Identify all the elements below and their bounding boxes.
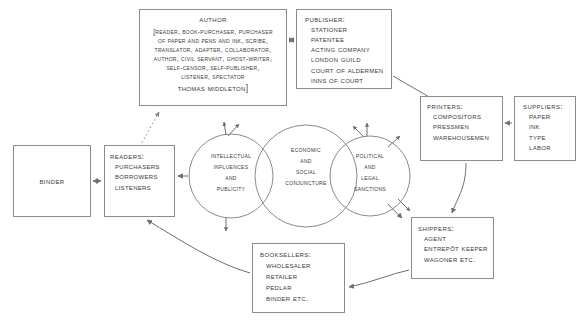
node-suppliers-line: Labor <box>523 143 575 154</box>
node-author-signature: Thomas Middleton] <box>143 83 283 93</box>
node-publisher-line: Inns of Court <box>305 76 391 86</box>
node-booksellers-line: Retailer <box>260 271 344 282</box>
node-publisher-line: Stationer <box>305 25 391 35</box>
node-binder: Binder <box>13 145 91 217</box>
node-readers-title: Readers: <box>110 152 174 161</box>
node-booksellers: Booksellers: Wholesaler Retailer Pedlar … <box>252 243 345 313</box>
circle-economic <box>255 125 357 227</box>
node-suppliers: Suppliers: Paper Ink Type Labor <box>514 96 576 161</box>
node-suppliers-lines: Paper Ink Type Labor <box>523 112 575 154</box>
node-booksellers-lines: Wholesaler Retailer Pedlar Binder etc. <box>260 260 344 304</box>
node-shippers-line: Wagoner etc. <box>418 255 493 266</box>
node-booksellers-line: Wholesaler <box>260 260 344 271</box>
node-publisher-line: Acting Company <box>305 45 391 55</box>
connector-booksellers-readers <box>147 220 250 273</box>
radiating-arrow-intellectual-up <box>224 122 226 135</box>
node-booksellers-line: Binder etc. <box>260 293 344 304</box>
node-printers-title: Printers: <box>427 102 502 111</box>
connector-printers-shippers <box>452 163 466 213</box>
radiating-arrow-political-upleft <box>353 126 364 137</box>
node-author-title: Author <box>143 14 283 24</box>
node-shippers-line: Entrepôt Keeper <box>418 244 493 255</box>
node-binder-title: Binder <box>39 177 64 186</box>
node-readers-line: Listeners <box>110 183 174 194</box>
node-publisher: Publisher: Stationer Patentee Acting Com… <box>296 9 392 89</box>
radiating-arrow-political-downright <box>398 199 410 211</box>
node-author-line: OF PAPER AND PENS AND INK, SCRIBE, <box>143 36 283 45</box>
circle-intellectual <box>189 134 273 218</box>
node-author-line: [READER, BOOK-PURCHASER, PURCHASER <box>143 27 283 36</box>
communications-circuit-diagram: Author [READER, BOOK-PURCHASER, PURCHASE… <box>0 0 582 324</box>
node-publisher-lines: Stationer Patentee Acting Company London… <box>305 25 391 87</box>
node-printers-line: Pressmen <box>427 122 502 133</box>
node-suppliers-line: Paper <box>523 112 575 123</box>
node-suppliers-line: Ink <box>523 122 575 133</box>
node-shippers-line: Agent <box>418 234 493 245</box>
node-readers: Readers: Purchasers Borrowers Listeners <box>104 145 175 217</box>
connector-shippers-booksellers <box>349 270 409 287</box>
node-readers-lines: Purchasers Borrowers Listeners <box>110 162 174 194</box>
node-readers-line: Purchasers <box>110 162 174 173</box>
node-author-lines: [READER, BOOK-PURCHASER, PURCHASER OF PA… <box>143 27 283 93</box>
node-shippers-title: Shippers: <box>418 224 493 233</box>
node-printers-lines: Compositors Pressmen Warehousemen <box>427 112 502 144</box>
node-publisher-title: Publisher: <box>305 15 391 24</box>
node-suppliers-line: Type <box>523 133 575 144</box>
node-publisher-line: London Guild <box>305 55 391 65</box>
node-readers-line: Borrowers <box>110 172 174 183</box>
node-booksellers-line: Pedlar <box>260 282 344 293</box>
node-author-line: LISTENER, SPECTATOR <box>143 72 283 81</box>
node-suppliers-title: Suppliers: <box>523 102 575 111</box>
node-shippers: Shippers: Agent Entrepôt Keeper Wagoner … <box>411 217 494 279</box>
node-author-line: AUTHOR, CIVIL SERVANT, GHOST-WRITER, <box>143 54 283 63</box>
node-printers-line: Warehousemen <box>427 133 502 144</box>
node-author-line: TRANSLATOR, ADAPTER, COLLABORATOR, <box>143 45 283 54</box>
circle-political <box>330 136 410 216</box>
node-publisher-line: Patentee <box>305 35 391 45</box>
node-booksellers-title: Booksellers: <box>260 250 344 259</box>
node-shippers-lines: Agent Entrepôt Keeper Wagoner etc. <box>418 234 493 266</box>
node-author: Author [READER, BOOK-PURCHASER, PURCHASE… <box>139 9 287 106</box>
node-printers: Printers: Compositors Pressmen Warehouse… <box>420 96 503 161</box>
node-publisher-line: Court of Aldermen <box>305 66 391 76</box>
node-author-line: SELF-CENSOR, SELF-PUBLISHER, <box>143 63 283 72</box>
node-printers-line: Compositors <box>427 112 502 123</box>
